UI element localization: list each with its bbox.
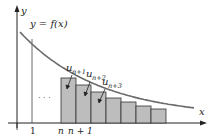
rectangle-2 [76,85,91,123]
rectangle-4 [106,98,121,123]
rectangle-6 [136,106,151,123]
y-axis-label: y [20,5,27,16]
rectangle-3 [91,92,106,123]
integral-test-diagram: y x y = f(x) · · · u n+1 u n+2 u n+3 1 n… [0,0,210,140]
ellipsis: · · · [38,93,51,102]
curve-label: y = f(x) [29,18,68,29]
rectangle-5 [121,102,136,123]
term-label-subscript: n+1 [72,68,86,76]
tick-label-1: 1 [30,126,36,136]
x-axis-arrow-icon [200,121,207,126]
term-label-u-n+1: u n+1 [66,62,86,76]
y-axis-arrow-icon [15,5,20,12]
term-label-subscript: n+3 [108,82,122,90]
rectangle-7 [151,109,166,123]
tick-label-n: n [58,126,64,136]
tick-label-n-plus-1: n + 1 [68,126,93,136]
x-axis-label: x [199,106,205,117]
